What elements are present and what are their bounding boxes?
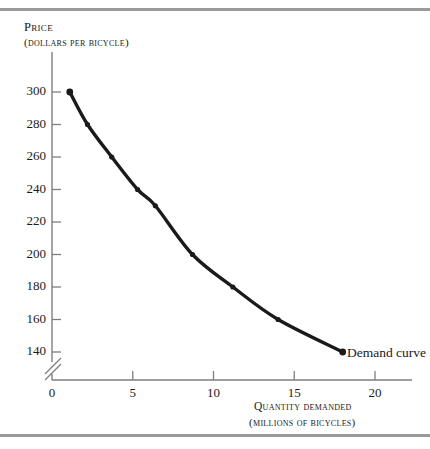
x-tick-label: 20	[360, 385, 390, 401]
data-point-marker	[153, 203, 158, 208]
y-tick-label: 220	[14, 213, 46, 229]
data-point-marker	[276, 317, 281, 322]
y-ticks-group	[52, 92, 61, 352]
y-tick-label: 300	[14, 83, 46, 99]
demand-curve-group	[70, 92, 343, 352]
x-ticks-group	[133, 371, 375, 380]
x-tick-label: 0	[37, 385, 67, 401]
y-tick-label: 240	[14, 181, 46, 197]
y-tick-label: 260	[14, 148, 46, 164]
data-point-marker	[230, 284, 235, 289]
x-tick-label: 15	[279, 385, 309, 401]
y-tick-label: 140	[14, 343, 46, 359]
x-tick-label: 10	[199, 385, 229, 401]
data-point-marker	[85, 122, 90, 127]
chart-plot-area	[0, 0, 430, 449]
data-point-markers-group	[66, 89, 346, 356]
y-tick-label: 160	[14, 311, 46, 327]
data-point-marker	[190, 252, 195, 257]
figure-panel: Price (dollars per bicycle) Quantity dem…	[0, 0, 430, 449]
y-tick-label: 180	[14, 278, 46, 294]
data-point-marker	[66, 89, 73, 96]
data-point-marker	[339, 349, 346, 356]
demand-curve-path	[70, 92, 343, 352]
x-tick-label: 5	[118, 385, 148, 401]
axes-group	[45, 52, 412, 380]
y-tick-label: 280	[14, 116, 46, 132]
data-point-marker	[135, 187, 140, 192]
data-point-marker	[109, 154, 114, 159]
y-tick-label: 200	[14, 246, 46, 262]
